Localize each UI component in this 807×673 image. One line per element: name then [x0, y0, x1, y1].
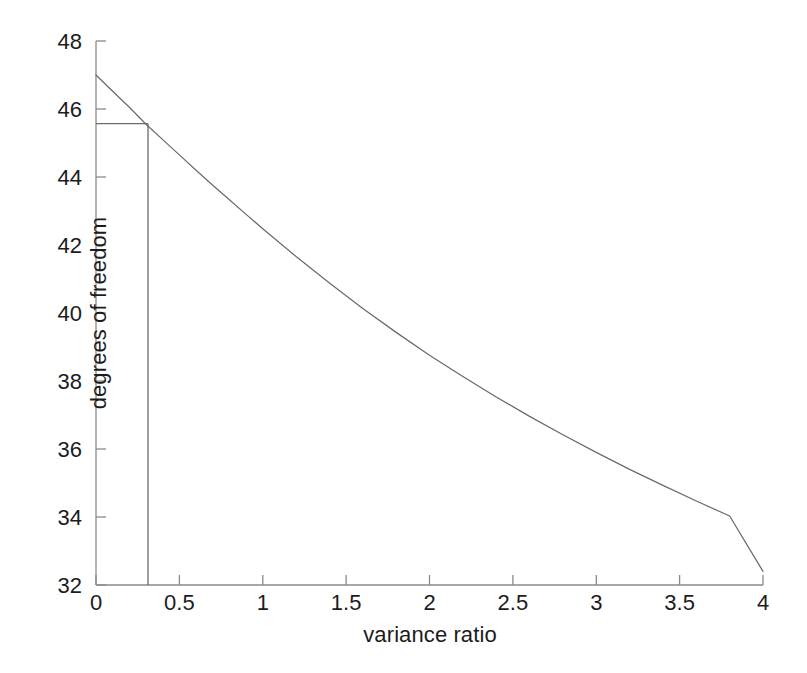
y-tick-marks [96, 41, 106, 585]
ytick-label-40: 40 [12, 301, 82, 327]
annotation-marker-lines [96, 124, 148, 585]
xtick-label-2: 2 [390, 590, 470, 616]
xtick-label-0p5: 0.5 [139, 590, 219, 616]
ytick-label-42: 42 [12, 233, 82, 259]
data-curve [96, 75, 763, 571]
axis-spines [96, 41, 763, 585]
xtick-label-3: 3 [556, 590, 636, 616]
ytick-label-48: 48 [12, 29, 82, 55]
ytick-label-38: 38 [12, 369, 82, 395]
x-axis-label: variance ratio [0, 622, 807, 648]
xtick-label-3p5: 3.5 [640, 590, 720, 616]
ytick-label-46: 46 [12, 97, 82, 123]
figure-canvas: 48 46 44 42 40 38 36 34 32 0 0.5 1 1.5 2… [0, 0, 807, 673]
x-tick-marks [96, 575, 763, 585]
ytick-label-36: 36 [12, 437, 82, 463]
xtick-label-4: 4 [723, 590, 803, 616]
ytick-label-44: 44 [12, 165, 82, 191]
xtick-label-1: 1 [223, 590, 303, 616]
plot-area [0, 0, 807, 673]
xtick-label-1p5: 1.5 [306, 590, 386, 616]
xtick-label-2p5: 2.5 [473, 590, 553, 616]
xtick-label-0: 0 [56, 590, 136, 616]
ytick-label-34: 34 [12, 505, 82, 531]
